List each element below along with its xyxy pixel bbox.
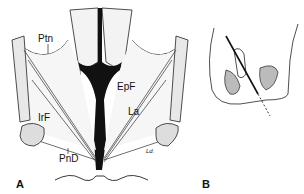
panel-b-sagittal-pelvis: B [200,0,304,194]
panel-letter-b: B [202,178,210,190]
pelvis-sagittal-illustration [200,0,304,194]
label-irf: IrF [38,113,50,123]
label-ptn: Ptn [38,34,53,44]
panel-letter-a: A [16,178,24,190]
panel-a-coronal-pelvis: Ptn EpF La IrF PnD Ld. A [0,0,200,194]
label-pnd: PnD [59,154,78,164]
label-la: La [128,107,139,117]
label-epf: EpF [117,82,135,92]
artist-signature: Ld. [146,148,154,154]
pelvic-floor-coronal-illustration [0,0,200,194]
